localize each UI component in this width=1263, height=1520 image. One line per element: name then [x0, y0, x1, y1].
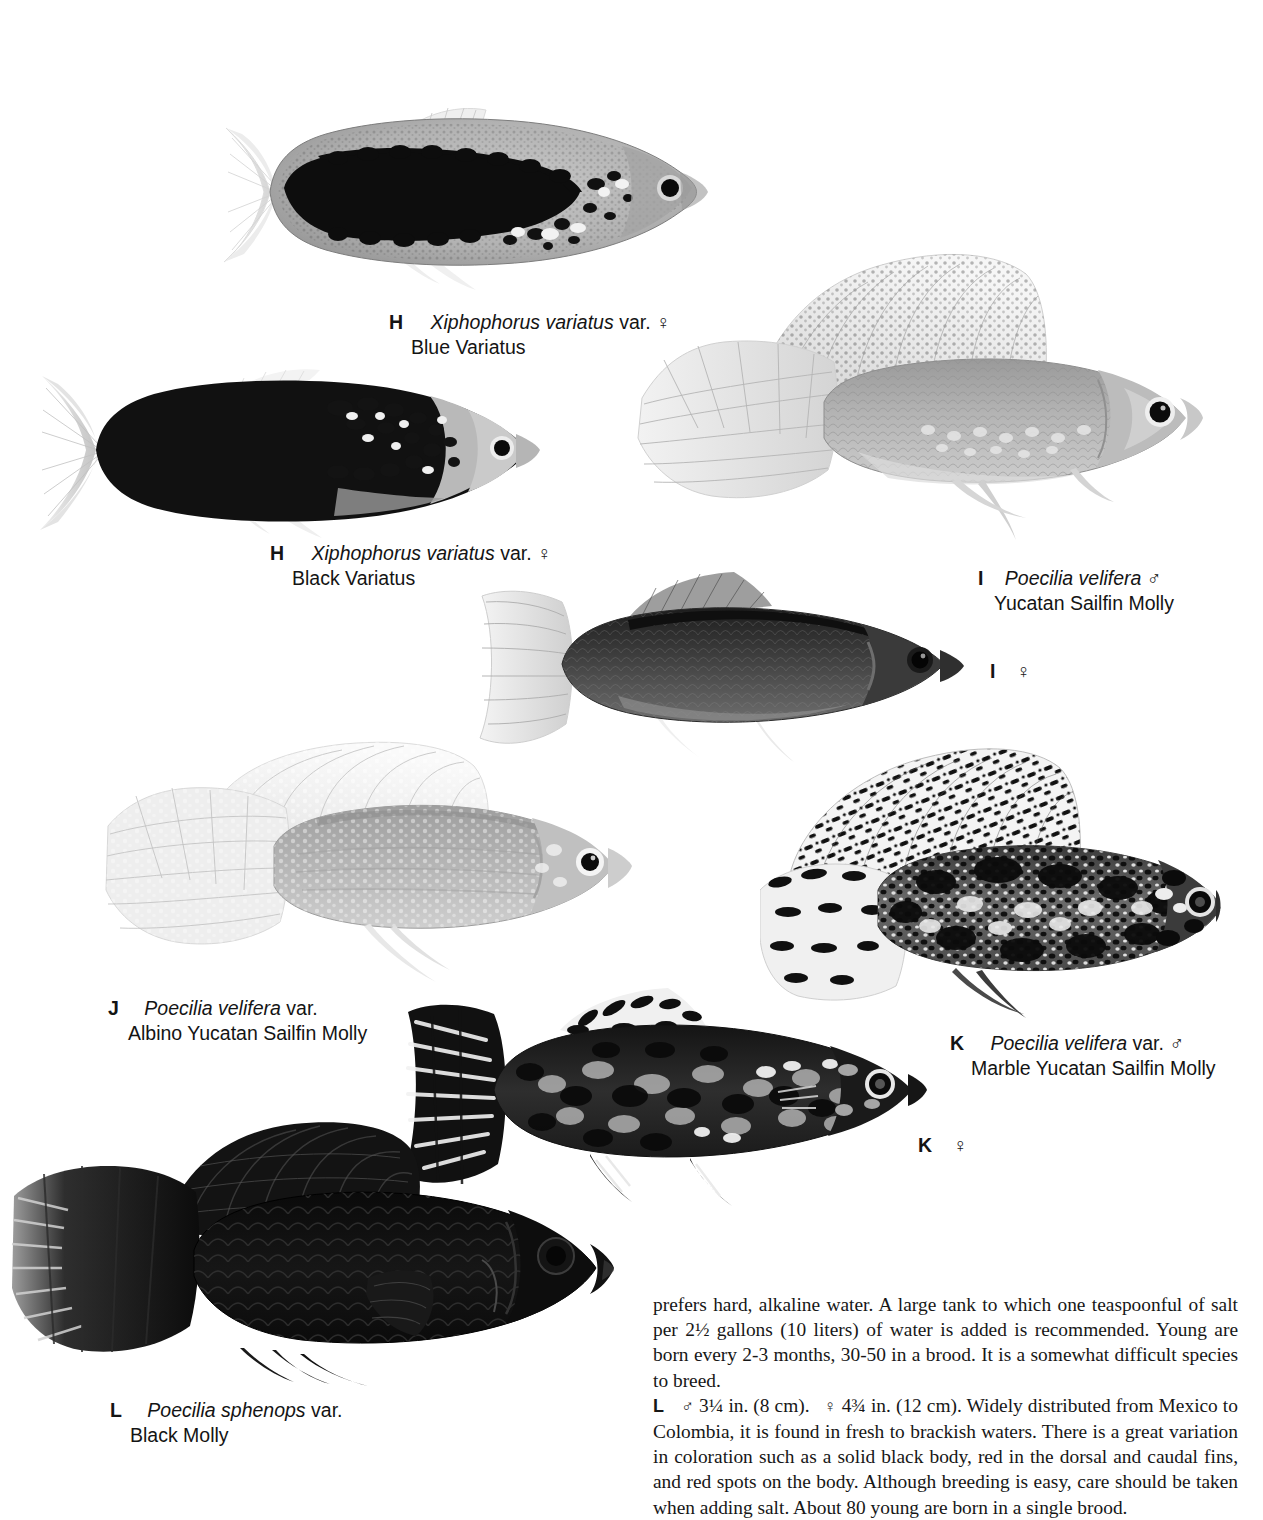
caption-j-albino: J Poecilia velifera var. Albino Yucatan … [108, 996, 367, 1046]
sex-symbol-male-icon: ♂ [1147, 567, 1162, 589]
marker-letter: K [918, 1134, 932, 1156]
caption-species: Xiphophorus variatus [431, 311, 614, 333]
caption-species: Poecilia velifera [991, 1032, 1128, 1054]
paragraph-continuation: prefers hard, alkaline water. A large ta… [653, 1292, 1238, 1393]
female-size: 4¾ in. (12 cm). [842, 1395, 962, 1416]
caption-var: var. [286, 997, 317, 1019]
fish-photo-black-variatus [38, 358, 554, 544]
caption-letter: J [108, 996, 119, 1021]
sex-symbol-female-icon: ♀ [824, 1397, 837, 1416]
caption-l-black-molly: L Poecilia sphenops var. Black Molly [110, 1398, 342, 1448]
caption-letter: H [270, 541, 284, 566]
paragraph-entry-l: L ♂ 3¼ in. (8 cm). ♀ 4¾ in. (12 cm). Wid… [653, 1393, 1238, 1520]
caption-letter: L [110, 1398, 122, 1423]
caption-species: Poecilia velifera [144, 997, 281, 1019]
caption-species: Poecilia velifera [1005, 567, 1142, 589]
caption-common-name: Yucatan Sailfin Molly [978, 591, 1174, 616]
caption-common-name: Albino Yucatan Sailfin Molly [108, 1021, 367, 1046]
sex-symbol-male-icon: ♂ [681, 1397, 694, 1416]
caption-var: var. [500, 542, 531, 564]
sex-symbol-female-icon: ♀ [537, 542, 552, 564]
caption-i-male-sailfin: I Poecilia velifera ♂ Yucatan Sailfin Mo… [978, 566, 1174, 616]
marker-i-female: I ♀ [990, 660, 1031, 683]
caption-species: Xiphophorus variatus [312, 542, 495, 564]
caption-letter: I [978, 566, 983, 591]
species-description-text: prefers hard, alkaline water. A large ta… [653, 1292, 1238, 1520]
sex-symbol-female-icon: ♀ [1016, 660, 1031, 682]
entry-letter: L [653, 1396, 664, 1416]
sex-symbol-male-icon: ♂ [1169, 1032, 1184, 1054]
caption-letter: H [389, 310, 403, 335]
caption-k-male-marble: K Poecilia velifera var. ♂ Marble Yucata… [950, 1031, 1216, 1081]
caption-species: Poecilia sphenops [147, 1399, 305, 1421]
fish-photo-black-molly [8, 1118, 618, 1386]
fish-photo-yucatan-sailfin-molly-female [478, 572, 974, 764]
fish-photo-yucatan-sailfin-molly-male [628, 252, 1204, 572]
male-size: 3¼ in. (8 cm). [699, 1395, 809, 1416]
caption-var: var. [1133, 1032, 1164, 1054]
caption-letter: K [950, 1031, 964, 1056]
marker-letter: I [990, 660, 995, 682]
caption-common-name: Black Molly [110, 1423, 342, 1448]
marker-k-female: K ♀ [918, 1134, 968, 1157]
caption-var: var. [311, 1399, 342, 1421]
caption-common-name: Marble Yucatan Sailfin Molly [950, 1056, 1216, 1081]
fish-photo-albino-yucatan-sailfin-molly [98, 738, 634, 992]
sex-symbol-female-icon: ♀ [953, 1134, 968, 1156]
